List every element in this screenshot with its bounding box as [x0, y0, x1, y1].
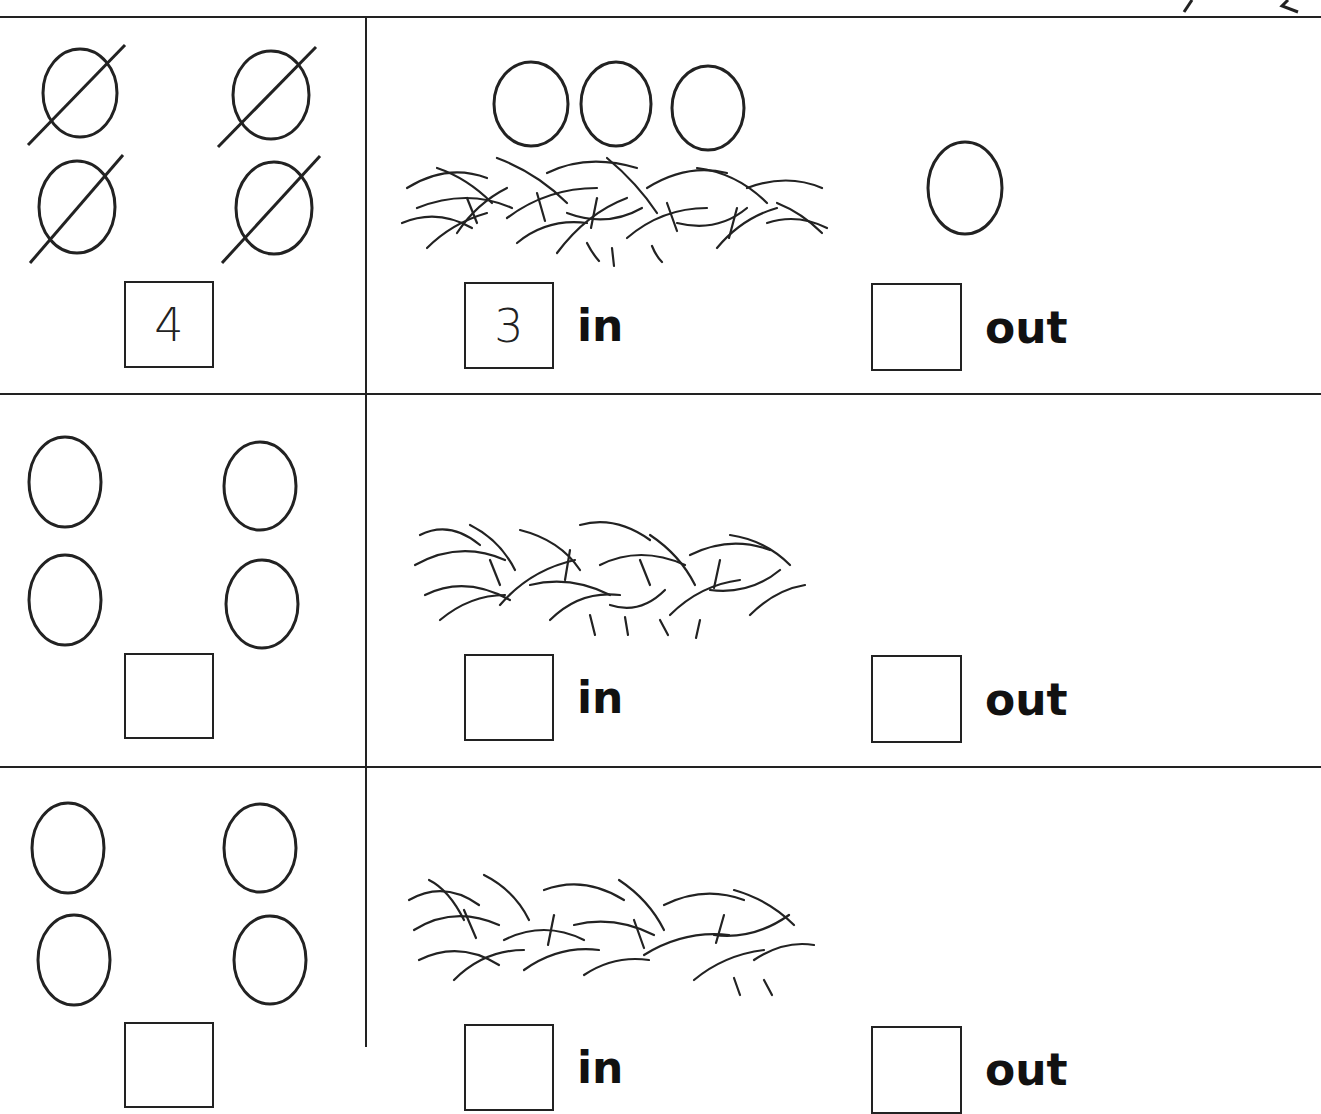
nest-icon — [397, 128, 832, 268]
egg-icon — [220, 438, 300, 538]
row-divider-2 — [0, 766, 1321, 768]
nest-icon — [410, 505, 815, 640]
nest-icon — [404, 860, 819, 995]
total-eggs-answer-box[interactable]: 4 — [124, 281, 214, 368]
total-eggs-answer-box[interactable] — [124, 1022, 214, 1108]
crossed-egg-icon — [30, 155, 130, 245]
out-of-nest-answer-box[interactable] — [871, 283, 962, 371]
out-label: out — [985, 306, 1068, 350]
egg-icon — [30, 798, 110, 898]
egg-icon — [220, 800, 300, 900]
in-nest-answer-box[interactable]: 3 — [464, 282, 554, 369]
in-label: in — [577, 1046, 623, 1090]
out-of-nest-answer-box[interactable] — [871, 655, 962, 743]
out-label: out — [985, 678, 1068, 722]
crossed-egg-icon — [222, 156, 322, 246]
egg-icon — [36, 910, 116, 1010]
in-nest-answer-box[interactable] — [464, 1024, 554, 1111]
loose-egg-icon — [925, 138, 1005, 238]
in-label: in — [577, 304, 623, 348]
crossed-egg-icon — [216, 47, 316, 137]
egg-icon — [27, 550, 107, 650]
out-of-nest-answer-box[interactable] — [871, 1026, 962, 1114]
out-label: out — [985, 1048, 1068, 1092]
egg-icon — [222, 556, 302, 656]
egg-icon — [230, 912, 310, 1012]
crossed-egg-icon — [28, 45, 128, 135]
corner-decoration-icon — [1170, 0, 1321, 16]
column-divider — [365, 16, 367, 1047]
in-label: in — [577, 676, 623, 720]
egg-icon — [27, 432, 107, 532]
total-eggs-answer-box[interactable] — [124, 653, 214, 739]
row-divider-1 — [0, 393, 1321, 395]
top-border-line — [0, 16, 1321, 18]
in-nest-answer-box[interactable] — [464, 654, 554, 741]
